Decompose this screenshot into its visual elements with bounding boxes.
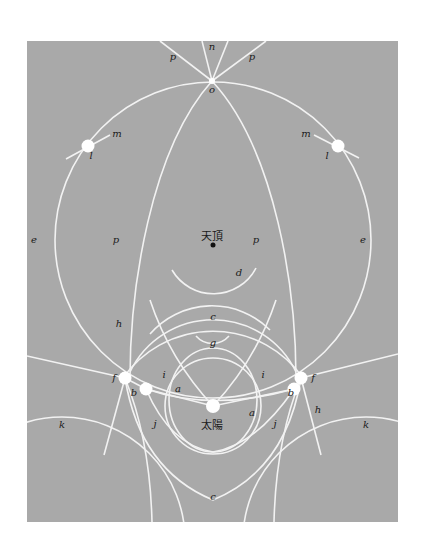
label-f-left: f xyxy=(112,373,116,383)
label-c-upper: c xyxy=(210,312,216,322)
sun-label: 太陽 xyxy=(201,420,223,431)
arc-d xyxy=(172,268,256,294)
label-p-top-left: p xyxy=(170,52,176,62)
label-l-left: l xyxy=(89,151,92,161)
point-b-left xyxy=(140,383,153,396)
zenith-dot xyxy=(211,243,216,248)
label-k-right: k xyxy=(363,420,369,430)
label-g: g xyxy=(210,338,216,348)
arc-p-right xyxy=(212,81,296,378)
label-a-left: a xyxy=(175,384,181,394)
line-inner-left xyxy=(150,300,213,406)
halo-diagram-lines xyxy=(27,41,398,522)
point-f-right xyxy=(295,372,308,385)
line-parhelic xyxy=(27,354,398,401)
circle-k-right xyxy=(243,417,398,522)
label-l-right: l xyxy=(325,151,328,161)
label-i-right: i xyxy=(261,370,264,380)
circle-k-left xyxy=(27,417,185,522)
label-f-right: f xyxy=(311,373,315,383)
label-h-left: h xyxy=(116,319,122,329)
label-b-left: b xyxy=(131,388,137,398)
label-c-lower: c xyxy=(210,492,216,502)
label-n: n xyxy=(209,42,215,52)
point-f-left xyxy=(119,372,132,385)
label-p-mid-left: p xyxy=(113,235,119,245)
zenith-label: 天頂 xyxy=(201,231,223,242)
label-j-left: j xyxy=(153,419,156,429)
line-h-left xyxy=(104,378,125,455)
arc-p-left xyxy=(130,81,212,378)
label-d: d xyxy=(236,268,242,278)
sun-point xyxy=(206,399,220,413)
label-j-right: j xyxy=(273,419,276,429)
label-m-right: m xyxy=(301,129,310,139)
line-h-right xyxy=(301,378,321,455)
label-m-left: m xyxy=(112,129,121,139)
label-a-right: a xyxy=(249,408,255,418)
label-i-left: i xyxy=(162,370,165,380)
arc-c-lower xyxy=(125,378,301,500)
label-h-right: h xyxy=(315,405,321,415)
label-e-left: e xyxy=(31,235,37,245)
label-k-left: k xyxy=(59,420,65,430)
point-l-right xyxy=(332,140,345,153)
label-p-mid-right: p xyxy=(253,235,259,245)
label-p-top-right: p xyxy=(249,52,255,62)
line-inner-right xyxy=(213,300,276,406)
label-e-right: e xyxy=(360,235,366,245)
halo-diagram-panel: n p p o m m l l e p p e 天頂 d h c g f i i… xyxy=(27,41,398,522)
label-b-right: b xyxy=(288,388,294,398)
label-o: o xyxy=(209,85,215,95)
